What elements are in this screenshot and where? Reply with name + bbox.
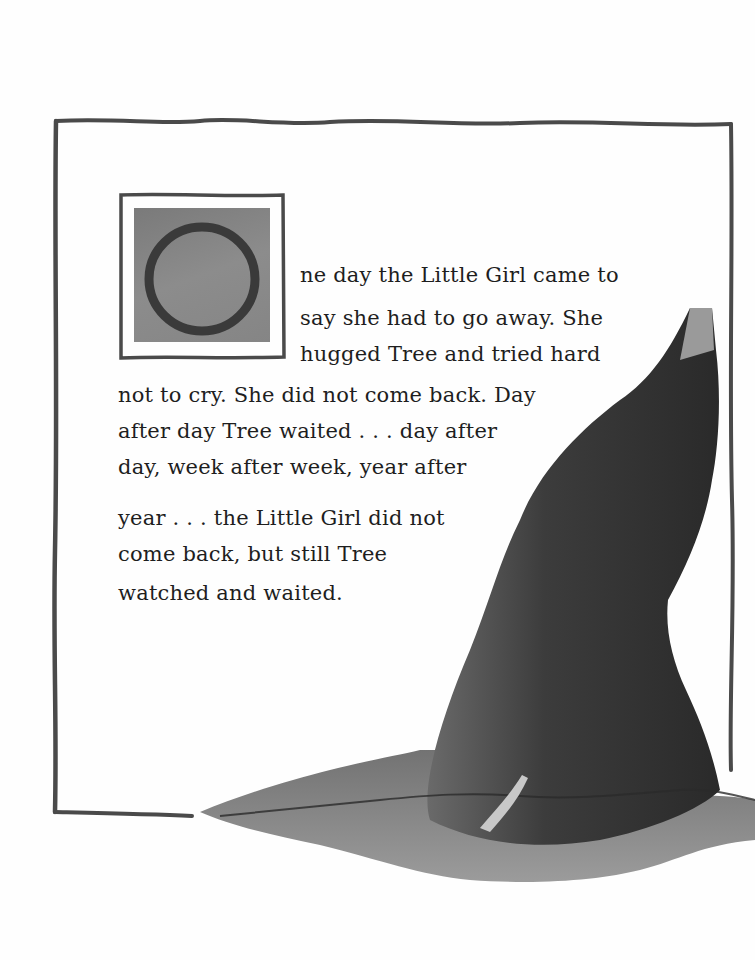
story-line-2: say she had to go away. She (300, 306, 603, 330)
tree-stump-illustration (0, 0, 755, 960)
story-line-5: after day Tree waited . . . day after (118, 419, 497, 443)
story-line-8: come back, but still Tree (118, 542, 387, 566)
story-line-6: day, week after week, year after (118, 455, 467, 479)
story-line-7: year . . . the Little Girl did not (118, 506, 445, 530)
story-line-3: hugged Tree and tried hard (300, 342, 601, 366)
story-line-4: not to cry. She did not come back. Day (118, 383, 536, 407)
story-line-9: watched and waited. (118, 581, 343, 605)
book-page: O ne day the Little Girl came to say she… (0, 0, 755, 960)
story-line-1: ne day the Little Girl came to (300, 263, 619, 287)
